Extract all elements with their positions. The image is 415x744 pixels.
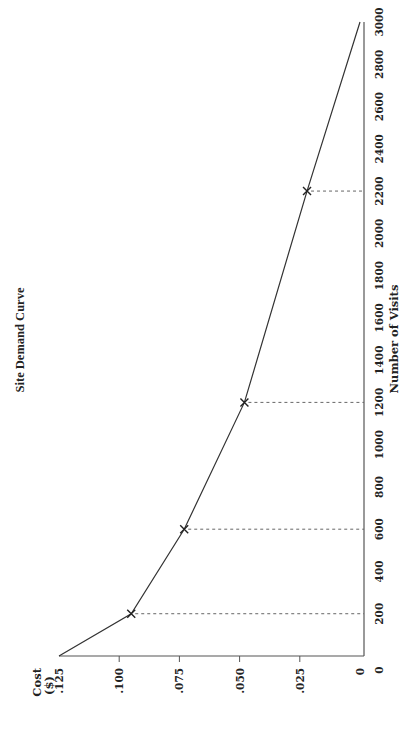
- axis-ticks: 2004006008001000120014001600180020002200…: [30, 7, 401, 696]
- cost-axis-title-line2: ($): [42, 676, 56, 695]
- visits-tick-label: 1000: [373, 430, 385, 459]
- demand-curve-line: [59, 22, 360, 656]
- visits-tick-label: 1600: [373, 303, 385, 332]
- visits-axis-title: Number of Visits: [387, 285, 401, 394]
- data-point-x-marker: [240, 398, 248, 406]
- data-point-x-marker: [303, 187, 311, 195]
- chart-title: Site Demand Curve: [13, 287, 27, 392]
- demand-curve: [59, 22, 360, 656]
- data-point-markers: [127, 187, 311, 618]
- chart-title-group: Site Demand Curve: [13, 287, 27, 392]
- visits-tick-label: 3000: [373, 7, 385, 36]
- cost-tick-label: .100: [113, 668, 125, 694]
- visits-tick-label: 200: [373, 603, 385, 625]
- drop-lines: [135, 191, 364, 614]
- visits-tick-label: 2800: [373, 50, 385, 79]
- visits-tick-label: 2200: [373, 176, 385, 205]
- visits-tick-label: 1400: [373, 346, 385, 375]
- cost-tick-label: 0: [354, 668, 366, 675]
- cost-tick-label: .050: [234, 668, 246, 694]
- visits-tick-label: 2600: [373, 92, 385, 121]
- cost-tick-label: .025: [294, 668, 306, 694]
- visits-tick-label: 1200: [373, 388, 385, 417]
- visits-tick-label: 2400: [373, 134, 385, 163]
- cost-tick-label: .075: [173, 668, 185, 694]
- axes: [59, 22, 364, 656]
- site-demand-chart: Site Demand Curve 2004006008001000120014…: [0, 0, 415, 744]
- visits-tick-label: 800: [373, 476, 385, 498]
- visits-tick-label: 600: [373, 518, 385, 540]
- data-point-x-marker: [180, 525, 188, 533]
- visits-tick-label: 400: [373, 561, 385, 583]
- visits-tick-label-zero: 0: [373, 666, 385, 673]
- visits-tick-label: 2000: [373, 219, 385, 248]
- visits-tick-label: 1800: [373, 261, 385, 290]
- data-point-x-marker: [127, 610, 135, 618]
